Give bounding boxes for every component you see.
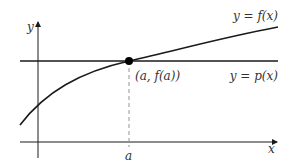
x-axis-label: x [268, 142, 275, 156]
curve-p-label: y = p(x) [229, 69, 279, 83]
curve-f-label: y = f(x) [232, 9, 278, 23]
tick-label-a: a [125, 149, 132, 163]
point-label: (a, f(a)) [135, 69, 180, 83]
tangent-line-diagram: y x a y = f(x) y = p(x) (a, f(a)) [0, 0, 295, 168]
y-axis-label: y [26, 20, 34, 34]
tangent-point [125, 57, 133, 65]
